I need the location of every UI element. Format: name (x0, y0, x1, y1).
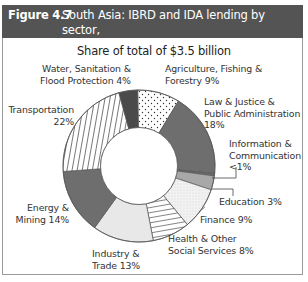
label-law-justice: Law & Justice & Public Administration 18… (204, 96, 300, 131)
label-water: Water, Sanitation & Flood Protection 4% (40, 63, 131, 86)
label-finance: Finance 9% (200, 214, 252, 226)
label-industry: Industry & Trade 13% (92, 248, 139, 271)
label-education: Education 3% (219, 196, 282, 208)
education-leader-line (212, 189, 233, 196)
label-energy: Energy & Mining 14% (15, 202, 69, 225)
label-health: Health & Other Social Services 8% (168, 233, 253, 256)
donut-hole (101, 128, 178, 205)
label-information: Information & Communication <1% (229, 138, 301, 173)
label-agriculture: Agriculture, Fishing & Forestry 9% (165, 63, 262, 86)
label-transportation: Transportation 22% (5, 104, 74, 127)
